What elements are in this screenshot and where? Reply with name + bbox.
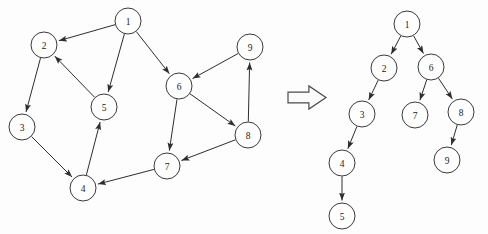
- graph-node-circle-4: [70, 175, 96, 201]
- graph-node-circle-6: [166, 73, 192, 99]
- tree-node-circle-3: [349, 101, 375, 127]
- tree-node-8[interactable]: 8: [448, 99, 474, 125]
- tree-node-group: 126378495: [329, 11, 474, 229]
- graph-node-5[interactable]: 5: [91, 94, 117, 120]
- tree-node-7[interactable]: 7: [402, 102, 428, 128]
- graph-edge-3-to-4: [32, 137, 72, 177]
- tree-node-circle-5: [329, 203, 355, 229]
- graph-node-1[interactable]: 1: [115, 8, 141, 34]
- graph-node-7[interactable]: 7: [154, 153, 180, 179]
- tree-edge-6-to-8: [438, 78, 452, 99]
- tree-edge-6-to-7: [420, 80, 427, 100]
- tree-node-circle-2: [371, 55, 397, 81]
- tree-node-circle-9: [434, 147, 460, 173]
- graph-node-circle-5: [91, 94, 117, 120]
- rightwards-block-arrow: [288, 86, 326, 109]
- graph-edge-5-to-2: [55, 56, 95, 97]
- graph-edge-1-to-5: [108, 34, 124, 92]
- graph-node-circle-8: [235, 122, 261, 148]
- diagram-svg: 123456789 126378495: [0, 0, 488, 234]
- graph-edge-1-to-6: [136, 32, 169, 74]
- graph-node-9[interactable]: 9: [237, 34, 263, 60]
- transform-arrow: [288, 86, 326, 109]
- tree-edge-8-to-9: [451, 125, 457, 145]
- graph-node-circle-1: [115, 8, 141, 34]
- graph-node-6[interactable]: 6: [166, 73, 192, 99]
- graph-node-8[interactable]: 8: [235, 122, 261, 148]
- graph-node-circle-2: [31, 32, 57, 58]
- graph-edge-group: [26, 25, 250, 184]
- graph-edge-1-to-2: [59, 25, 115, 41]
- graph-node-group: 123456789: [9, 8, 263, 201]
- tree-node-circle-6: [418, 54, 444, 80]
- graph-edge-2-to-3: [26, 58, 40, 112]
- graph-node-circle-3: [9, 114, 35, 140]
- graph-edge-7-to-4: [98, 169, 154, 184]
- tree-edge-1-to-6: [414, 36, 424, 54]
- graph-edge-4-to-5: [86, 122, 100, 175]
- graph-edge-9-to-6: [193, 53, 239, 78]
- tree-node-3[interactable]: 3: [349, 101, 375, 127]
- graph-edge-6-to-7: [169, 99, 177, 150]
- tree-node-9[interactable]: 9: [434, 147, 460, 173]
- tree-edge-2-to-3: [369, 80, 378, 100]
- graph-edge-8-to-7: [181, 140, 235, 161]
- tree-edge-1-to-2: [391, 36, 401, 54]
- tree-node-circle-8: [448, 99, 474, 125]
- graph-node-circle-9: [237, 34, 263, 60]
- tree-node-2[interactable]: 2: [371, 55, 397, 81]
- tree-node-circle-7: [402, 102, 428, 128]
- graph-node-3[interactable]: 3: [9, 114, 35, 140]
- figure-canvas: 123456789 126378495: [0, 0, 488, 234]
- tree-node-4[interactable]: 4: [329, 150, 355, 176]
- tree-node-circle-4: [329, 150, 355, 176]
- graph-edge-6-to-8: [190, 94, 235, 126]
- tree-node-circle-1: [394, 11, 420, 37]
- graph-node-circle-7: [154, 153, 180, 179]
- tree-node-1[interactable]: 1: [394, 11, 420, 37]
- tree-node-6[interactable]: 6: [418, 54, 444, 80]
- graph-node-2[interactable]: 2: [31, 32, 57, 58]
- graph-edge-8-to-9: [248, 62, 249, 121]
- tree-node-5[interactable]: 5: [329, 203, 355, 229]
- graph-node-4[interactable]: 4: [70, 175, 96, 201]
- tree-edge-3-to-4: [348, 126, 357, 148]
